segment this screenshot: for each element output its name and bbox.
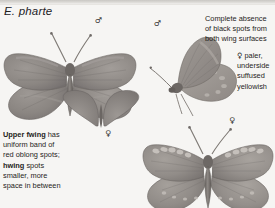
female-symbol-inline: ♀ xyxy=(237,51,242,60)
annotation-female-line-1: ♀ paler, xyxy=(237,51,275,61)
page-title: E. pharte xyxy=(4,5,52,17)
specimen-male-underside xyxy=(150,32,245,118)
annotation-absence-line-1: Complete absence xyxy=(205,14,275,24)
annotation-female-paler: ♀ paler, underside suffused yellowish xyxy=(237,51,275,92)
annotation-absence-line-2: of black spots from xyxy=(205,24,275,34)
specimen-female-upperside xyxy=(140,120,275,208)
annotation-upper-forewing: Upper fwing has uniform band of red oblo… xyxy=(3,130,67,191)
annotation-female-line-3: suffused xyxy=(237,71,275,81)
annotation-absence-of-spots: Complete absence of black spots from bot… xyxy=(205,14,275,45)
annotation-female-word-1: paler, xyxy=(244,51,262,60)
annotation-upper-bold-mid: hwing xyxy=(3,161,24,170)
annotation-absence-line-3: both wing surfaces xyxy=(205,34,275,44)
annotation-female-line-4: yellowish xyxy=(237,82,275,92)
plate-page: E. pharte xyxy=(0,0,275,208)
female-symbol-small: ♀ xyxy=(105,130,111,138)
annotation-female-line-2: underside xyxy=(237,61,275,71)
annotation-upper-bold-lead: Upper fwing xyxy=(3,130,46,139)
female-symbol-upperside: ♀ xyxy=(229,117,235,125)
male-symbol-underside: ♂ xyxy=(154,20,161,28)
male-symbol-upperside: ♂ xyxy=(95,17,102,25)
